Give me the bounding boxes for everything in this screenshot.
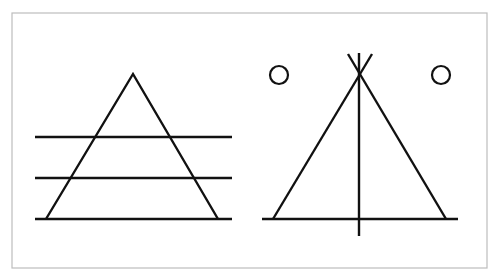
diagram-frame: [12, 13, 487, 268]
diagram-canvas: [0, 0, 504, 279]
